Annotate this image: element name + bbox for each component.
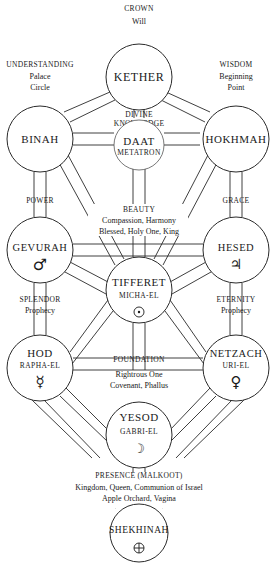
netzach-label-prophecy: Prophecy <box>221 306 251 315</box>
mercury-icon: ☿ <box>35 373 44 391</box>
node-binah: BINAH <box>7 106 73 172</box>
hokhmah-label-point: Point <box>228 83 246 92</box>
shekhinah-label-apple-orchard: Apple Orchard, Vagina <box>102 494 176 503</box>
gevurah-name: GEVURAH <box>13 242 68 253</box>
tree-of-life-diagram: KETHER CROWN Will BINAH UNDERSTANDING Pa… <box>0 0 275 566</box>
moon-icon: ☽ <box>133 441 145 456</box>
node-tifferet: TIFFERET MICHA-EL <box>106 257 172 323</box>
daat-name: DAAT <box>123 135 154 147</box>
netzach-name: NETZACH <box>210 348 263 359</box>
hod-angel-raphael: RAPHA-EL <box>20 361 60 370</box>
node-shekhinah: SHEKHINAH <box>109 504 169 562</box>
node-yesod: YESOD GABRI-EL ☽ <box>106 402 172 468</box>
binah-label-understanding: UNDERSTANDING <box>6 60 74 69</box>
hod-label-prophecy: Prophecy <box>25 306 55 315</box>
shekhinah-label-kingdom: Kingdom, Queen, Communion of Israel <box>75 483 203 492</box>
daat-label-divine: DIVINE <box>125 110 153 119</box>
yesod-label-covenant: Covenant, Phallus <box>110 381 168 390</box>
binah-label-palace: Palace <box>30 72 51 81</box>
hokhmah-label-wisdom: WISDOM <box>219 60 252 69</box>
node-hesed: HESED ♃ <box>203 217 269 283</box>
daat-angel-metatron: METATRON <box>117 148 161 157</box>
kether-name: KETHER <box>114 70 164 84</box>
hod-name: HOD <box>27 347 52 359</box>
tifferet-label-compassion: Compassion, Harmony <box>102 216 176 225</box>
node-netzach: NETZACH URI-EL ♀ <box>203 335 269 401</box>
node-gevurah: GEVURAH ♂ <box>7 217 73 283</box>
yesod-angel-gabriel: GABRI-EL <box>120 427 158 436</box>
binah-name: BINAH <box>21 133 58 145</box>
earth-icon <box>134 543 144 553</box>
hesed-name: HESED <box>218 242 254 253</box>
tifferet-angel-michael: MICHA-EL <box>119 291 159 300</box>
hokhmah-label-beginning: Beginning <box>219 72 252 81</box>
netzach-angel-uriel: URI-EL <box>223 361 250 370</box>
binah-label-circle: Circle <box>30 83 50 92</box>
tifferet-name: TIFFERET <box>112 276 166 288</box>
node-hod: HOD RAPHA-EL ☿ <box>7 335 73 401</box>
shekhinah-name: SHEKHINAH <box>109 525 169 535</box>
kether-label-will: Will <box>132 17 147 26</box>
tifferet-label-beauty: BEAUTY <box>123 205 155 214</box>
mars-icon: ♂ <box>33 255 47 274</box>
gevurah-label-power: POWER <box>26 196 54 205</box>
node-hokhmah: HOKHMAH <box>203 106 269 172</box>
hokhmah-name: HOKHMAH <box>206 133 267 145</box>
netzach-label-eternity: ETERNITY <box>216 295 255 304</box>
tifferet-label-blessed: Blessed, Holy One, King <box>99 227 179 236</box>
yesod-label-foundation: FOUNDATION <box>113 355 165 364</box>
hesed-label-grace: GRACE <box>223 196 250 205</box>
shekhinah-label-presence: PRESENCE (MALKOOT) <box>95 471 182 480</box>
node-kether: KETHER <box>106 44 172 110</box>
node-daat: DAAT METATRON <box>114 120 164 170</box>
kether-label-crown: CROWN <box>124 4 154 13</box>
hod-label-splendor: SPLENDOR <box>19 295 60 304</box>
venus-icon: ♀ <box>231 373 242 391</box>
yesod-label-righteous-one: Rightrous One <box>116 370 163 379</box>
yesod-name: YESOD <box>119 411 158 423</box>
jupiter-icon: ♃ <box>230 256 243 272</box>
